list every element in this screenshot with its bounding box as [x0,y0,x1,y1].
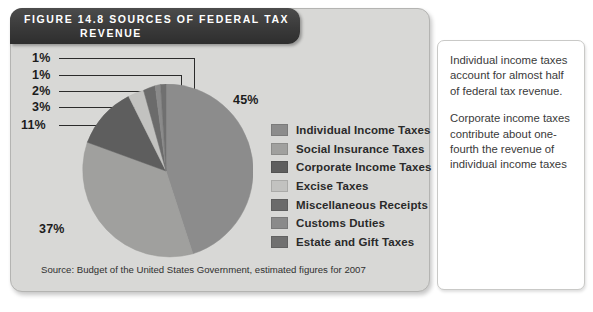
legend-swatch-icon [271,236,288,248]
legend-swatch-icon [271,180,288,192]
figure-title-line-2: REVENUE [24,26,290,40]
pie-slices [83,84,253,257]
legend-item: Social Insurance Taxes [271,140,432,159]
caption-paragraph-1: Individual income taxes account for almo… [450,53,572,99]
leader-line-1a [59,58,194,59]
pie-label-1-estate: 1% [32,51,50,65]
legend-item: Individual Income Taxes [271,121,432,140]
pie-svg [79,84,253,258]
legend-label: Individual Income Taxes [296,124,430,136]
legend-item: Miscellaneous Receipts [271,195,432,214]
legend-item: Excise Taxes [271,177,432,196]
figure-title-line-1: FIGURE 14.8 SOURCES OF FEDERAL TAX [24,12,290,26]
legend-item: Customs Duties [271,214,432,233]
caption-panel: Individual income taxes account for almo… [437,40,585,290]
legend-swatch-icon [271,124,288,136]
caption-paragraph-2: Corporate income taxes contribute about … [450,111,572,173]
figure-title-bar: FIGURE 14.8 SOURCES OF FEDERAL TAX REVEN… [10,8,300,44]
legend-label: Social Insurance Taxes [296,143,425,155]
pie-label-3: 3% [32,100,50,114]
legend-label: Excise Taxes [296,180,369,192]
legend-label: Miscellaneous Receipts [296,199,428,211]
leader-line-1b [59,75,181,76]
legend: Individual Income Taxes Social Insurance… [271,121,432,251]
legend-label: Corporate Income Taxes [296,161,432,173]
pie-chart [79,84,253,258]
figure-panel: FIGURE 14.8 SOURCES OF FEDERAL TAX REVEN… [10,8,430,292]
legend-item: Corporate Income Taxes [271,158,432,177]
source-note: Source: Budget of the United States Gove… [41,264,366,275]
legend-swatch-icon [271,161,288,173]
legend-label: Estate and Gift Taxes [296,236,414,248]
legend-swatch-icon [271,217,288,229]
pie-label-11: 11% [21,118,46,132]
pie-label-1-customs: 1% [32,68,50,82]
pie-label-2: 2% [32,84,50,98]
legend-swatch-icon [271,143,288,155]
legend-label: Customs Duties [296,217,385,229]
pie-label-37: 37% [39,222,65,236]
legend-item: Estate and Gift Taxes [271,233,432,252]
legend-swatch-icon [271,199,288,211]
pie-label-45: 45% [233,93,259,107]
